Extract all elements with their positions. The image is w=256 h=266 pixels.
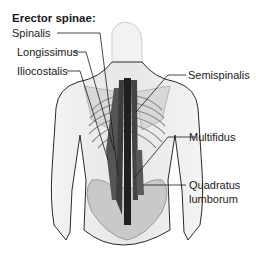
spine-muscle <box>124 78 131 225</box>
label-spinalis: Spinalis <box>12 27 51 39</box>
label-semispinalis: Semispinalis <box>188 69 250 81</box>
label-iliocostalis: Iliocostalis <box>17 65 68 77</box>
label-multifidus: Multifidus <box>189 131 235 143</box>
diagram-title: Erector spinae: <box>12 12 96 24</box>
label-quadratus: Quadratus <box>189 179 240 191</box>
label-lumborum: lumborum <box>189 193 238 205</box>
label-longissimus: Longissimus <box>17 46 78 58</box>
